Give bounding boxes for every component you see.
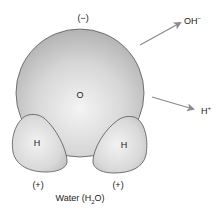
hydrogen-ion-label: H+ [201,105,211,116]
oxygen-charge-label: (−) [77,14,88,23]
arrow-to-hydroxide [140,23,180,45]
hydrogen-right-label: H [121,141,128,150]
hydroxide-ion-label: OH− [184,15,201,26]
caption-suffix: O) [95,193,105,203]
hydrogen-right-charge-label: (+) [112,181,123,190]
oxygen-label: O [76,91,83,100]
arrow-to-hydrogen-ion [152,97,193,109]
caption-prefix: Water (H [55,193,91,203]
hydrogen-left-label: H [34,139,41,148]
hydrogen-ion-charge: + [208,105,212,111]
hydrogen-left-charge-label: (+) [32,181,43,190]
molecule-caption: Water (H2O) [55,194,104,205]
hydroxide-base: OH [184,16,198,26]
hydroxide-charge: − [198,15,202,21]
